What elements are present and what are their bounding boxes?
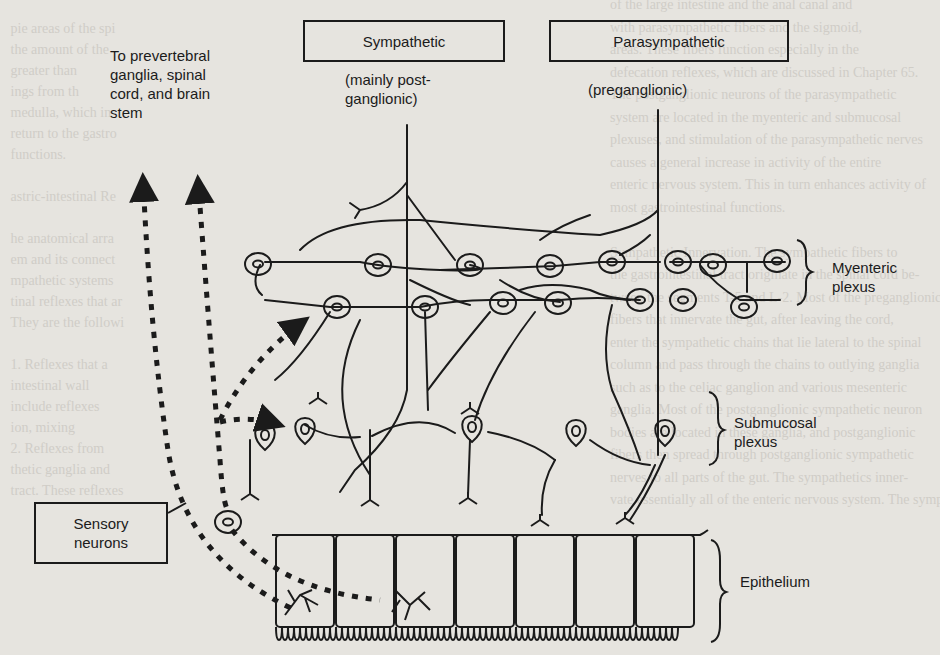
destination-label-line1: To prevertebral — [110, 46, 280, 65]
epithelium-cells — [272, 530, 708, 640]
myenteric-line2: plexus — [832, 277, 897, 296]
microvilli — [276, 627, 678, 640]
sensory-pathway-4 — [220, 419, 280, 425]
brace-myenteric — [797, 240, 812, 305]
sensory-pathway-3 — [220, 320, 305, 420]
submucosal-neurons — [215, 416, 675, 533]
brace-submucosal — [709, 392, 724, 465]
parasympathetic-subtitle: (preganglionic) — [588, 80, 748, 99]
sympathetic-subtitle-line2: ganglionic) — [345, 89, 495, 108]
myenteric-line1: Myenteric — [832, 258, 897, 277]
sensory-line1: Sensory — [73, 514, 128, 533]
parasympathetic-subtitle-text: (preganglionic) — [588, 80, 748, 99]
sensory-line2: neurons — [74, 533, 128, 552]
sympathetic-box: Sympathetic — [303, 20, 505, 62]
sensory-pathway-2 — [198, 180, 228, 510]
sensory-neurons-box: Sensory neurons — [34, 502, 168, 564]
submucosal-line1: Submucosal — [734, 413, 817, 432]
sensory-pathway-5 — [232, 530, 380, 600]
sympathetic-subtitle-line1: (mainly post- — [345, 70, 495, 89]
epithelium-label: Epithelium — [740, 572, 810, 591]
destination-label: To prevertebral ganglia, spinal cord, an… — [110, 46, 280, 122]
epithelium-text: Epithelium — [740, 572, 810, 591]
parasympathetic-box: Parasympathetic — [549, 20, 789, 62]
destination-label-line3: cord, and brain — [110, 84, 280, 103]
myenteric-neurons — [245, 250, 790, 318]
myenteric-plexus-label: Myenteric plexus — [832, 258, 897, 296]
destination-label-line2: ganglia, spinal — [110, 65, 280, 84]
parasympathetic-title: Parasympathetic — [613, 32, 725, 51]
brace-epithelium — [711, 540, 726, 642]
destination-label-line4: stem — [110, 103, 280, 122]
submucosal-line2: plexus — [734, 432, 817, 451]
sympathetic-subtitle: (mainly post- ganglionic) — [345, 70, 495, 108]
submucosal-plexus-label: Submucosal plexus — [734, 413, 817, 451]
sympathetic-title: Sympathetic — [363, 32, 446, 51]
